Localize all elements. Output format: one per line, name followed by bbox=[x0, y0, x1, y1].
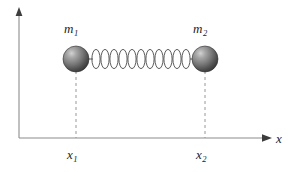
position-label-x1: x1 bbox=[67, 146, 78, 163]
position-label-x1-base: x bbox=[67, 147, 73, 162]
position-label-x2-base: x bbox=[196, 147, 202, 162]
position-label-x1-subscript: 1 bbox=[73, 154, 78, 164]
y-axis bbox=[16, 7, 23, 138]
mass-2-label-base: m bbox=[193, 21, 202, 36]
x-axis-arrowhead-icon bbox=[262, 134, 272, 141]
x-axis-label: x bbox=[276, 130, 282, 146]
x-axis bbox=[19, 134, 272, 141]
mass-2-sphere bbox=[192, 46, 218, 72]
mass-2-label-subscript: 2 bbox=[202, 28, 207, 38]
diagram-canvas bbox=[0, 0, 296, 172]
physics-diagram-two-masses-spring: m1 m2 x1 x2 x bbox=[0, 0, 296, 172]
coil-spring bbox=[88, 49, 195, 68]
mass-1-sphere bbox=[63, 46, 89, 72]
mass-1-label: m1 bbox=[64, 20, 78, 37]
x-axis-label-base: x bbox=[276, 131, 282, 146]
spring-loops bbox=[92, 49, 190, 68]
mass-2-label: m2 bbox=[193, 20, 207, 37]
mass-1-label-subscript: 1 bbox=[73, 28, 78, 38]
position-label-x2-subscript: 2 bbox=[202, 154, 207, 164]
position-label-x2: x2 bbox=[196, 146, 207, 163]
y-axis-arrowhead-icon bbox=[16, 7, 23, 16]
mass-1-label-base: m bbox=[64, 21, 73, 36]
